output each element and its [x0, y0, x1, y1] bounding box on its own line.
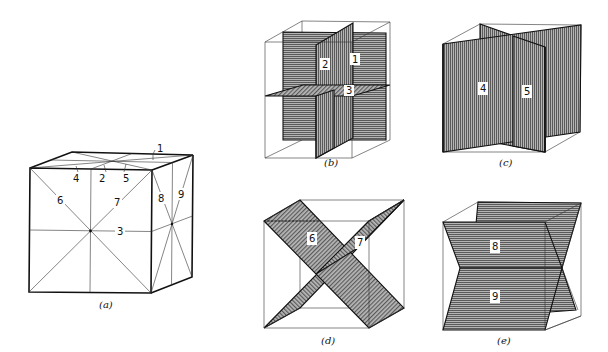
plane-4 — [443, 25, 581, 152]
panel-a: 1 2 3 4 5 6 7 8 9 (a) — [29, 143, 193, 310]
label-d-6: 6 — [309, 233, 315, 244]
caption-c: (c) — [499, 157, 513, 168]
caption-b: (b) — [324, 157, 338, 168]
label-a-4: 4 — [73, 173, 79, 184]
plane-8 — [443, 222, 562, 268]
label-c-5: 5 — [524, 86, 530, 97]
label-a-9: 9 — [178, 189, 184, 200]
label-a-5: 5 — [123, 173, 129, 184]
panel-d: 6 7 (d) — [264, 200, 404, 346]
label-a-1: 1 — [157, 143, 163, 154]
caption-e: (e) — [497, 335, 511, 346]
label-a-8: 8 — [158, 193, 164, 204]
panel-e: 8 9 (e) — [443, 202, 581, 346]
caption-a: (a) — [99, 299, 113, 310]
label-b-3: 3 — [346, 85, 352, 96]
right-face-lines — [151, 155, 193, 293]
label-a-7: 7 — [114, 197, 120, 208]
panel-b: 2 1 3 (b) — [265, 21, 390, 168]
label-e-8: 8 — [492, 241, 498, 252]
plane-9 — [443, 268, 562, 330]
label-d-7: 7 — [357, 237, 363, 248]
cube-outline-a — [29, 152, 193, 293]
label-e-9: 9 — [492, 291, 498, 302]
caption-d: (d) — [321, 335, 335, 346]
panel-c: 4 5 (c) — [443, 24, 581, 168]
label-b-2: 2 — [322, 59, 328, 70]
cube-symmetry-planes-figure: 1 2 3 4 5 6 7 8 9 (a) 2 1 3 — [0, 0, 608, 352]
label-a-3: 3 — [117, 226, 123, 237]
label-c-4: 4 — [480, 83, 486, 94]
label-a-2: 2 — [99, 173, 105, 184]
front-face-lines — [29, 168, 152, 293]
label-a-6: 6 — [57, 195, 63, 206]
label-b-1: 1 — [352, 54, 358, 65]
